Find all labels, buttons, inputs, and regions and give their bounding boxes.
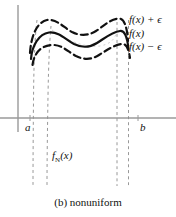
figure-caption: (b) nonuniform xyxy=(0,196,176,208)
label-middle-curve: f(x) xyxy=(129,28,144,39)
curve-middle xyxy=(31,31,129,59)
fn-label-arg: (x) xyxy=(60,149,72,161)
curve-upper-band xyxy=(30,19,128,54)
label-lower-band: f(x) − ϵ xyxy=(129,41,162,52)
label-upper-band: f(x) + ϵ xyxy=(129,14,162,25)
label-point-a: a xyxy=(25,122,31,133)
label-fn-approximation: fN(x) xyxy=(52,150,72,164)
label-point-b: b xyxy=(140,122,146,133)
plot-area xyxy=(0,0,176,217)
fn-spike-left-inner xyxy=(47,26,51,186)
figure-nonuniform-convergence: f(x) + ϵ f(x) f(x) − ϵ a b fN(x) (b) non… xyxy=(0,0,176,217)
